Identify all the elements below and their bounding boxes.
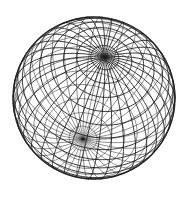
sphere-grid-line <box>100 32 170 138</box>
wireframe-sphere <box>0 0 186 197</box>
wireframe-sphere-figure <box>0 0 186 197</box>
sphere-grid-line <box>83 43 156 139</box>
